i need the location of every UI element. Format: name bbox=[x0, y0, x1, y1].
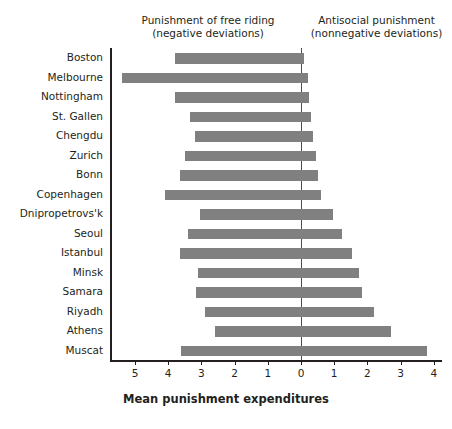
category-label: Muscat bbox=[0, 341, 103, 361]
category-label: Istanbul bbox=[0, 243, 103, 263]
x-tick-label: 1 bbox=[324, 367, 344, 379]
category-label: Dnipropetrovs'k bbox=[0, 204, 103, 224]
bar bbox=[181, 346, 427, 357]
x-axis-line bbox=[110, 360, 442, 362]
x-tick bbox=[434, 361, 435, 365]
bar bbox=[205, 307, 374, 318]
x-tick-label: 2 bbox=[225, 367, 245, 379]
column-header-left-line1: Punishment of free riding bbox=[115, 14, 301, 27]
category-label: Seoul bbox=[0, 224, 103, 244]
bar bbox=[200, 209, 333, 220]
bar bbox=[188, 229, 342, 240]
bar bbox=[180, 248, 353, 259]
bar-row: Muscat bbox=[0, 341, 452, 361]
category-label: Minsk bbox=[0, 263, 103, 283]
category-label: St. Gallen bbox=[0, 107, 103, 127]
category-label: Chengdu bbox=[0, 126, 103, 146]
bar-row: Melbourne bbox=[0, 68, 452, 88]
bar-row: Samara bbox=[0, 282, 452, 302]
bar-row: Chengdu bbox=[0, 126, 452, 146]
bar bbox=[122, 73, 308, 84]
x-tick-label: 0 bbox=[291, 367, 311, 379]
bar bbox=[180, 170, 318, 181]
bar bbox=[165, 190, 321, 201]
x-tick-label: 5 bbox=[125, 367, 145, 379]
bar-row: Seoul bbox=[0, 224, 452, 244]
x-tick bbox=[135, 361, 136, 365]
bar-row: Minsk bbox=[0, 263, 452, 283]
bar-row: Dnipropetrovs'k bbox=[0, 204, 452, 224]
x-tick bbox=[301, 361, 302, 365]
category-label: Samara bbox=[0, 282, 103, 302]
category-label: Zurich bbox=[0, 146, 103, 166]
x-axis-title: Mean punishment expenditures bbox=[0, 392, 452, 406]
bar-row: Copenhagen bbox=[0, 185, 452, 205]
bar-row: Nottingham bbox=[0, 87, 452, 107]
column-header-right-line2: (nonnegative deviations) bbox=[301, 27, 452, 40]
column-header-right-line1: Antisocial punishment bbox=[301, 14, 452, 27]
category-label: Copenhagen bbox=[0, 185, 103, 205]
bar-row: Athens bbox=[0, 321, 452, 341]
bar bbox=[196, 287, 362, 298]
x-tick-label: 4 bbox=[158, 367, 178, 379]
category-label: Riyadh bbox=[0, 302, 103, 322]
bar-row: Bonn bbox=[0, 165, 452, 185]
bar-row: Riyadh bbox=[0, 302, 452, 322]
column-header-right: Antisocial punishment (nonnegative devia… bbox=[301, 14, 452, 40]
bar bbox=[195, 131, 313, 142]
plot-area: BostonMelbourneNottinghamSt. GallenCheng… bbox=[0, 48, 452, 360]
bar-row: Istanbul bbox=[0, 243, 452, 263]
category-label: Melbourne bbox=[0, 68, 103, 88]
x-tick bbox=[235, 361, 236, 365]
bar bbox=[185, 151, 316, 162]
category-label: Athens bbox=[0, 321, 103, 341]
bar bbox=[175, 92, 309, 103]
category-label: Nottingham bbox=[0, 87, 103, 107]
chart-container: Punishment of free riding (negative devi… bbox=[0, 0, 452, 429]
column-header-left: Punishment of free riding (negative devi… bbox=[115, 14, 301, 40]
bar bbox=[175, 53, 304, 64]
x-tick-label: 3 bbox=[191, 367, 211, 379]
bar-row: Zurich bbox=[0, 146, 452, 166]
bar bbox=[190, 112, 311, 123]
x-tick bbox=[401, 361, 402, 365]
x-tick bbox=[268, 361, 269, 365]
x-tick bbox=[334, 361, 335, 365]
x-tick bbox=[168, 361, 169, 365]
x-tick-label: 1 bbox=[258, 367, 278, 379]
category-label: Bonn bbox=[0, 165, 103, 185]
x-tick-label: 3 bbox=[391, 367, 411, 379]
bar-row: Boston bbox=[0, 48, 452, 68]
bar-row: St. Gallen bbox=[0, 107, 452, 127]
category-label: Boston bbox=[0, 48, 103, 68]
bar bbox=[198, 268, 359, 279]
x-tick bbox=[201, 361, 202, 365]
column-header-left-line2: (negative deviations) bbox=[115, 27, 301, 40]
x-tick-label: 4 bbox=[424, 367, 444, 379]
bar bbox=[215, 326, 391, 337]
x-tick-label: 2 bbox=[357, 367, 377, 379]
x-tick bbox=[367, 361, 368, 365]
